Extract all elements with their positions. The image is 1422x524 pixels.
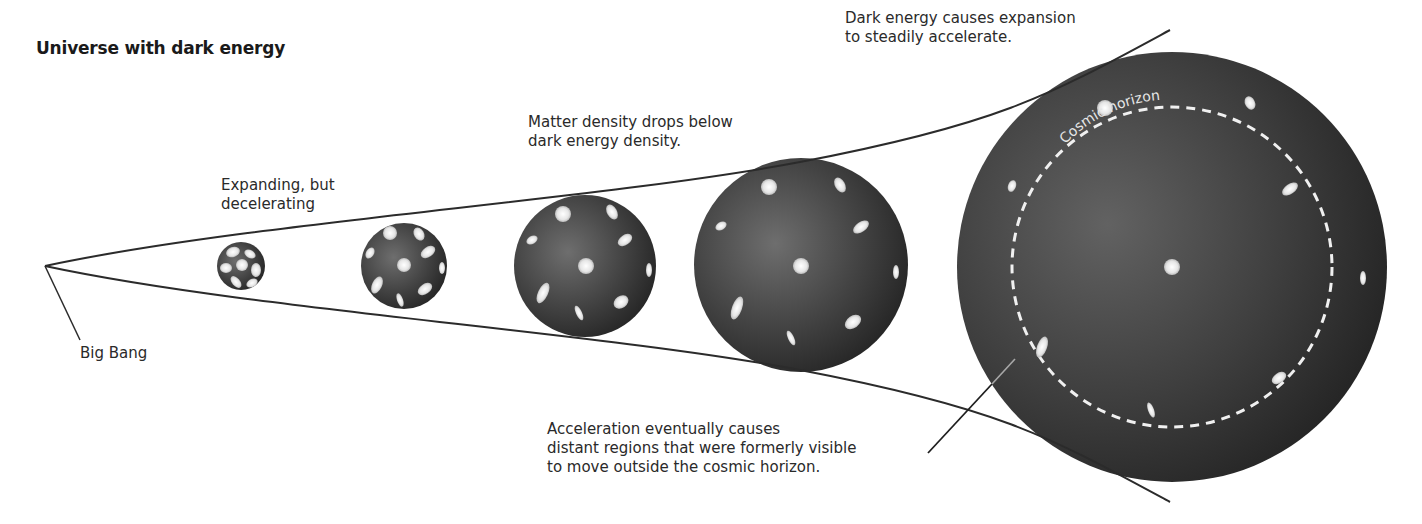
label-matter-density: Matter density drops below dark energy d… <box>528 113 733 151</box>
universe-sphere-2 <box>361 223 447 309</box>
universe-sphere-3 <box>514 195 656 337</box>
label-big-bang: Big Bang <box>80 344 147 363</box>
acceleration-leader-line <box>928 384 992 453</box>
universe-sphere-1 <box>217 242 265 290</box>
big-bang-leader-line <box>45 266 80 340</box>
label-acceleration: Acceleration eventually causes distant r… <box>547 420 856 477</box>
label-dark-energy: Dark energy causes expansion to steadily… <box>845 9 1076 47</box>
universe-sphere-4 <box>694 158 908 372</box>
label-decelerating: Expanding, but decelerating <box>221 176 335 214</box>
universe-sphere-5: Cosmic horizon <box>957 52 1387 482</box>
diagram-canvas: Universe with dark energy <box>0 0 1422 524</box>
